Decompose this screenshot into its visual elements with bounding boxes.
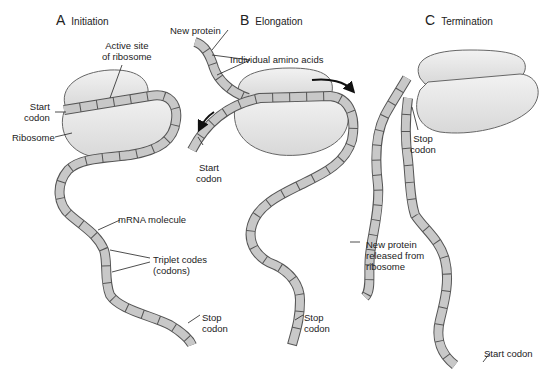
panel-a-initiation — [60, 70, 192, 345]
label-stop-codon-c: Stop codon — [410, 133, 436, 155]
label-new-protein: New protein — [170, 25, 221, 36]
ribosome-large-subunit — [417, 74, 539, 133]
label-triplet-codes: Triplet codes (codons) — [153, 254, 207, 276]
panel-b-title: BElongation — [240, 12, 303, 28]
panel-b-title-text: Elongation — [255, 16, 302, 27]
panel-c-termination — [365, 50, 538, 365]
label-active-site: Active site of ribosome — [102, 40, 152, 62]
label-new-protein-released: New protein released from ribosome — [366, 239, 424, 272]
panel-b-elongation — [192, 42, 353, 345]
panel-b-letter: B — [240, 12, 249, 28]
label-ribosome: Ribosome — [12, 132, 55, 143]
label-mrna-molecule: mRNA molecule — [118, 214, 186, 225]
label-stop-codon-a: Stop codon — [202, 312, 228, 334]
panel-c-title: CTermination — [425, 12, 493, 28]
panel-c-title-text: Termination — [441, 16, 493, 27]
panel-a-title-text: Initiation — [71, 16, 108, 27]
panel-c-letter: C — [425, 12, 435, 28]
label-individual-amino-acids: Individual amino acids — [230, 54, 323, 65]
label-start-codon-a: Start codon — [24, 101, 50, 123]
panel-a-letter: A — [56, 12, 65, 28]
label-stop-codon-b: Stop codon — [304, 312, 330, 334]
label-start-codon-b: Start codon — [196, 162, 222, 184]
label-start-codon-c: Start codon — [484, 348, 533, 359]
panel-a-title: AInitiation — [56, 12, 109, 28]
